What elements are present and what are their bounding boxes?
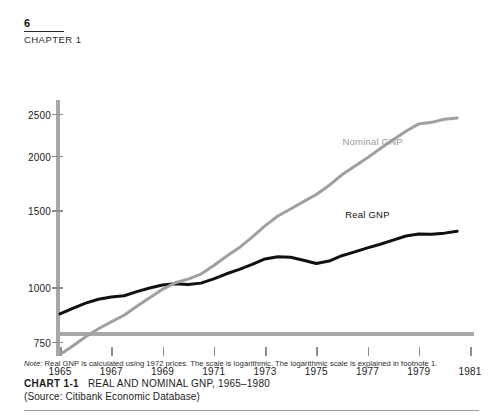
figure-note: Note: Real GNP is calculated using 1972 … (24, 358, 479, 370)
textbook-page: 6 CHAPTER 1 7501000150020002500 19651967… (0, 0, 498, 417)
plot-area: 7501000150020002500 19651967196919711973… (60, 100, 470, 356)
footer-rule (24, 410, 479, 411)
chart-title-text: REAL AND NOMINAL GNP, 1965–1980 (88, 378, 270, 389)
note-text: Real GNP is calculated using 1972 prices… (45, 359, 438, 368)
chapter-label: CHAPTER 1 (24, 34, 81, 45)
note-prefix: Note: (24, 359, 42, 368)
y-tick-label: 750 (34, 337, 51, 348)
y-tick-label: 1000 (28, 283, 51, 294)
series-lines (60, 100, 470, 356)
series-label-nominal-gnp: Nominal GNP (342, 135, 402, 146)
page-header: 6 CHAPTER 1 (24, 18, 81, 45)
x-tick-mark (470, 347, 472, 356)
header-rule (24, 31, 64, 32)
figure-caption: Note: Real GNP is calculated using 1972 … (24, 358, 479, 403)
chart-number: CHART 1-1 (24, 378, 79, 389)
chart-source: (Source: Citibank Economic Database) (24, 390, 479, 403)
line-real-gnp (60, 231, 457, 314)
chart-figure: 7501000150020002500 19651967196919711973… (0, 78, 498, 348)
series-label-real-gnp: Real GNP (345, 209, 389, 220)
y-tick-label: 1500 (28, 206, 51, 217)
page-number: 6 (24, 18, 81, 29)
line-nominal-gnp (60, 118, 457, 354)
chart-title-line: CHART 1-1 REAL AND NOMINAL GNP, 1965–198… (24, 377, 479, 390)
y-tick-label: 2000 (28, 151, 51, 162)
y-tick-label: 2500 (28, 109, 51, 120)
